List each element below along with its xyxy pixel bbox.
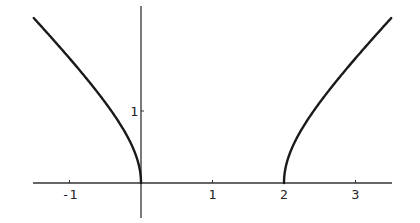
curve-right-branch xyxy=(284,18,391,183)
curves xyxy=(34,18,392,183)
tick-marks xyxy=(70,111,356,183)
x-tick-label: 1 xyxy=(209,187,217,202)
plot-canvas: -11231 xyxy=(0,0,420,223)
x-tick-label: 2 xyxy=(280,187,288,202)
y-tick-label: 1 xyxy=(130,104,138,119)
x-tick-label: 3 xyxy=(352,187,360,202)
tick-labels: -11231 xyxy=(62,104,360,202)
x-tick-label: -1 xyxy=(62,187,78,202)
curve-left-branch xyxy=(34,18,141,183)
